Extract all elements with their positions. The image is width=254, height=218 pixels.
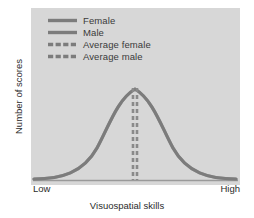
legend-item-male: Male [48,27,198,38]
distribution-curve-female [34,89,236,179]
legend-swatch-dashed-average-female-icon [48,39,77,50]
legend-item-average-male: Average male [48,51,198,62]
legend-swatch-solid-female-icon [48,15,77,26]
legend-swatch-dashed-average-male-icon [48,51,77,62]
distribution-curve-male [34,89,236,179]
figure-normal-distribution-visuospatial-skills: Female Male Average female [0,0,254,218]
x-tick-label-high: High [220,183,240,194]
legend-label-female: Female [83,15,115,26]
legend-item-average-female: Average female [48,39,198,50]
legend-label-average-male: Average male [83,51,143,62]
x-axis-title: Visuospatial skills [0,200,254,211]
legend-label-male: Male [83,27,104,38]
y-axis-title: Number of scores [13,27,24,167]
legend-label-average-female: Average female [83,39,151,50]
legend-item-female: Female [48,15,198,26]
legend: Female Male Average female [48,15,198,63]
legend-swatch-solid-male-icon [48,27,77,38]
x-tick-label-low: Low [33,183,50,194]
plot-area: Female Male Average female [31,8,240,185]
